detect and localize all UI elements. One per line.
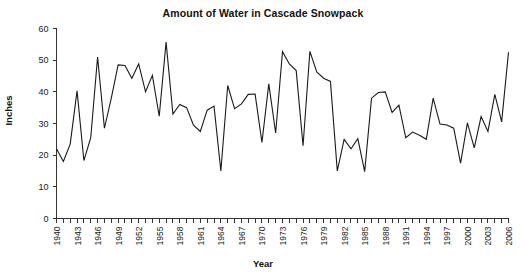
x-tick-label: 1982: [340, 226, 350, 245]
y-tick-label: 40: [38, 87, 48, 97]
x-tick-label: 1970: [257, 226, 267, 245]
y-tick-label: 0: [43, 214, 48, 224]
x-tick-label: 1973: [278, 226, 288, 245]
y-tick-label: 20: [38, 150, 48, 160]
x-tick-label: 1961: [196, 226, 206, 245]
x-tick-label: 1988: [381, 226, 391, 245]
data-series-line: [57, 42, 509, 172]
x-tick-label: 1991: [401, 226, 411, 245]
x-tick-label: 1952: [134, 226, 144, 245]
x-tick-label: 2003: [483, 226, 493, 245]
x-axis-ticks: 1940194319461949195219551958196119641967…: [52, 219, 514, 246]
chart-container: Amount of Water in Cascade Snowpack Inch…: [0, 0, 526, 278]
x-tick-label: 1943: [73, 226, 83, 245]
y-tick-label: 50: [38, 55, 48, 65]
plot-area: 0102030405060 19401943194619491952195519…: [0, 0, 526, 278]
x-tick-label: 1985: [360, 226, 370, 245]
y-tick-label: 10: [38, 182, 48, 192]
x-tick-label: 1967: [237, 226, 247, 245]
x-tick-label: 1955: [155, 226, 165, 245]
x-tick-label: 1994: [422, 226, 432, 245]
x-tick-label: 1979: [319, 226, 329, 245]
x-tick-label: 1958: [175, 226, 185, 245]
x-tick-label: 1976: [299, 226, 309, 245]
y-axis-ticks: 0102030405060: [38, 24, 56, 224]
y-tick-label: 30: [38, 119, 48, 129]
x-tick-label: 1997: [442, 226, 452, 245]
y-tick-label: 60: [38, 24, 48, 34]
x-tick-label: 2000: [463, 226, 473, 245]
x-tick-label: 1940: [52, 226, 62, 245]
x-tick-label: 2006: [504, 226, 514, 245]
x-tick-label: 1964: [216, 226, 226, 245]
x-tick-label: 1946: [93, 226, 103, 245]
x-tick-label: 1949: [114, 226, 124, 245]
